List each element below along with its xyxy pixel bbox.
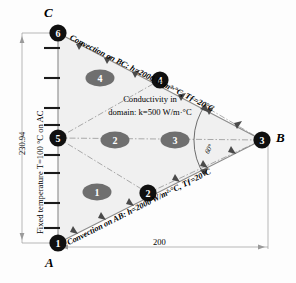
element-label-3: 3: [162, 134, 188, 147]
arrow-bottom: [20, 233, 25, 240]
vertex-label-C: C: [44, 6, 53, 19]
domain-triangle: [58, 33, 262, 243]
element-label-1: 1: [84, 186, 110, 199]
dimension-label-horizontal: 200: [153, 238, 166, 247]
node-label-5: 5: [50, 130, 67, 147]
arrow-top: [20, 36, 25, 43]
element-label-2: 2: [102, 134, 128, 147]
domain-conductivity-line2: domain: k=500 W/m·°C: [85, 108, 215, 117]
diagram-canvas: 1 2 3 4 5 6 1 2 3 4 C B A Convection on …: [0, 0, 296, 283]
vertex-label-B: B: [276, 131, 285, 144]
vertex-label-A: A: [45, 256, 54, 269]
domain-conductivity-line1: Conductivity in: [95, 95, 205, 104]
element-label-4: 4: [87, 72, 113, 85]
node-label-1: 1: [50, 235, 67, 252]
bc-label-fixed-temperature: Fixed temperature T=100 °C on AC: [36, 111, 45, 234]
node-label-3: 3: [254, 132, 271, 149]
dimension-label-vertical: 230.94: [18, 132, 27, 155]
node-label-6: 6: [50, 25, 67, 42]
arrow-right: [258, 245, 265, 250]
